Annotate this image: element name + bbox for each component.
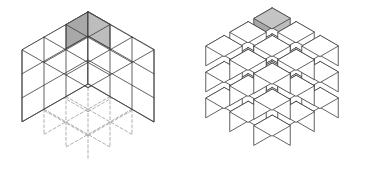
figure-stage — [0, 0, 366, 181]
isometric-cube-diagram — [0, 0, 366, 181]
panel-solid-3x3x3-cube — [22, 12, 154, 160]
hidden-edge — [44, 109, 110, 147]
panel-exploded-3x3x3-cube — [206, 8, 338, 145]
hidden-edge — [66, 109, 132, 147]
